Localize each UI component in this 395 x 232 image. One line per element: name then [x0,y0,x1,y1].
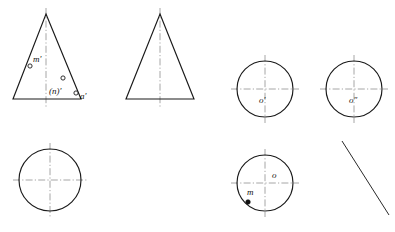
point-n-prime-label: (n)' [49,86,62,96]
circle-o-center-label: o [272,170,277,180]
view-triangle-plain [126,8,194,107]
point-a-prime-marker [74,91,78,95]
view-circle-o-double-prime: o″ [320,55,388,123]
view-triangle-front: m' (n)' a' [13,8,88,107]
circle-o-double-prime-label: o″ [349,95,358,105]
projection-drawing: m' (n)' a' o' o″ [0,0,395,232]
point-m-prime-marker [28,64,32,68]
view-diagonal-line [342,141,389,215]
point-a-prime-label: a' [80,91,88,101]
view-circle-blank [13,143,87,217]
view-circle-o: o m [231,149,299,217]
point-m-label: m [247,187,254,197]
view-circle-o-prime: o' [231,55,299,123]
circle-o-prime-label: o' [259,95,267,105]
triangle-front-outline [13,14,81,99]
point-m-marker [246,200,251,205]
point-m-prime-label: m' [33,54,42,64]
inclined-reference-line [342,141,389,215]
point-n-prime-marker [61,76,65,80]
figure-canvas: m' (n)' a' o' o″ [0,0,395,232]
